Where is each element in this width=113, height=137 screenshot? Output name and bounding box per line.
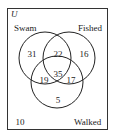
region-only-swam: 31: [28, 49, 37, 59]
region-outside: 10: [16, 117, 26, 127]
universe-label: U: [11, 9, 18, 19]
region-swam-walked: 19: [40, 75, 50, 85]
region-fished-walked: 17: [67, 75, 77, 85]
region-all-three: 35: [54, 69, 64, 79]
region-only-walked: 5: [56, 95, 61, 105]
region-swam-fished: 22: [54, 49, 63, 59]
set-label-swam: Swam: [14, 23, 37, 33]
venn-diagram: U Swam Fished Walked 31 22 16 19 35 17 5…: [0, 0, 113, 137]
region-only-fished: 16: [80, 49, 90, 59]
set-label-walked: Walked: [74, 117, 102, 127]
set-label-fished: Fished: [78, 23, 103, 33]
